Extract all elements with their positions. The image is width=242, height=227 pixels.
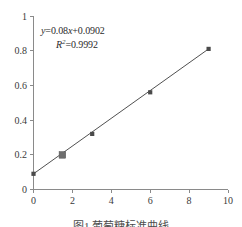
y-tick-label: 0.2 [15, 149, 28, 160]
data-point [31, 172, 35, 176]
x-tick-label: 10 [223, 195, 233, 206]
x-tick-label: 2 [70, 195, 75, 206]
data-point [207, 47, 211, 51]
y-tick-label: 0 [22, 184, 27, 195]
regression-equation: y=0.08x+0.0902 [41, 25, 105, 36]
data-point [90, 132, 94, 136]
chart-background [0, 0, 242, 227]
x-tick-label: 8 [187, 195, 192, 206]
x-tick-label: 0 [31, 195, 36, 206]
data-point [148, 90, 152, 94]
r-squared-value: =0.9992 [65, 39, 97, 50]
figure-container: 0 0.2 0.4 0.6 0.8 1 0 2 4 6 8 10 y=0. [0, 0, 242, 227]
y-tick-label: 0.6 [15, 80, 28, 91]
y-tick-label: 1 [22, 11, 27, 22]
figure-caption: 图1 葡萄糖标准曲线 [0, 216, 242, 227]
y-tick-label: 0.4 [15, 115, 28, 126]
scatter-chart: 0 0.2 0.4 0.6 0.8 1 0 2 4 6 8 10 [0, 0, 242, 227]
y-tick-label: 0.8 [15, 45, 28, 56]
x-tick-label: 6 [148, 195, 153, 206]
r-squared-annotation: R2=0.9992 [56, 38, 98, 50]
x-tick-label: 4 [109, 195, 114, 206]
equation-suffix: +0.0902 [72, 25, 104, 36]
equation-body: =0.08 [45, 25, 68, 36]
data-point-highlight [59, 152, 66, 159]
